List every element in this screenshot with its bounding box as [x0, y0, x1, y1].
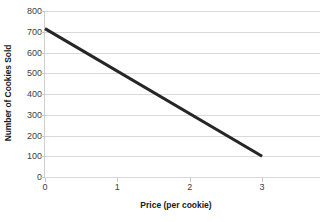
y-axis-tick-mark — [41, 136, 45, 137]
y-axis-tick-label: 0 — [16, 173, 42, 182]
y-axis-tick-label: 600 — [16, 48, 42, 57]
plot-area — [45, 11, 320, 177]
y-axis-tick-mark — [41, 11, 45, 12]
gridline-horizontal — [45, 11, 320, 12]
gridline-horizontal — [45, 115, 320, 116]
y-axis-tick-label: 100 — [16, 152, 42, 161]
gridline-horizontal — [45, 53, 320, 54]
x-axis-tick-label: 2 — [178, 183, 202, 192]
y-axis-tick-mark — [41, 32, 45, 33]
demand-curve-chart: Number of Cookies Sold 01002003004005006… — [0, 0, 328, 222]
y-axis-tick-mark — [41, 94, 45, 95]
y-axis-tick-mark — [41, 53, 45, 54]
y-axis-tick-label: 200 — [16, 131, 42, 140]
y-axis-tick-label: 500 — [16, 69, 42, 78]
y-axis-tick-label: 800 — [16, 7, 42, 16]
y-axis-tick-label: 400 — [16, 90, 42, 99]
y-axis-tick-labels: 0100200300400500600700800 — [14, 0, 42, 186]
x-axis-tick-label: 0 — [33, 183, 57, 192]
gridline-horizontal — [45, 177, 320, 178]
y-axis-tick-label: 300 — [16, 110, 42, 119]
gridline-horizontal — [45, 73, 320, 74]
gridline-horizontal — [45, 136, 320, 137]
x-axis-title: Price (per cookie) — [45, 200, 307, 210]
y-axis-tick-mark — [41, 115, 45, 116]
gridline-horizontal — [45, 32, 320, 33]
gridline-horizontal — [45, 94, 320, 95]
y-axis-tick-label: 700 — [16, 27, 42, 36]
y-axis-tick-mark — [41, 156, 45, 157]
x-axis-tick-label: 1 — [105, 183, 129, 192]
x-axis-tick-label: 3 — [250, 183, 274, 192]
gridline-horizontal — [45, 156, 320, 157]
y-axis-title-text: Number of Cookies Sold — [3, 45, 13, 142]
y-axis-tick-mark — [41, 73, 45, 74]
